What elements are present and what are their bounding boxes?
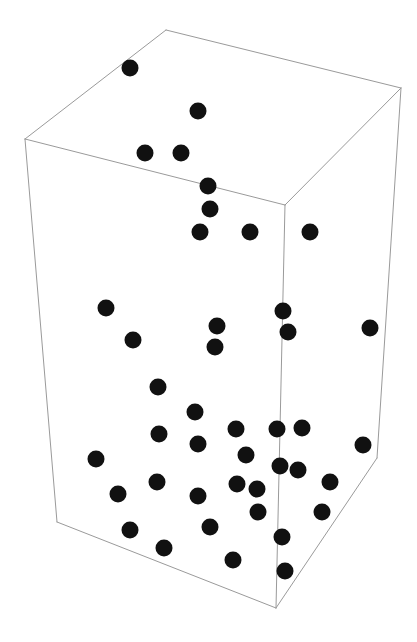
data-point <box>202 201 219 218</box>
data-point <box>202 519 219 536</box>
data-point <box>242 224 259 241</box>
data-point <box>290 462 307 479</box>
data-point <box>277 563 294 580</box>
data-point <box>229 476 246 493</box>
data-point <box>280 324 297 341</box>
data-point <box>362 320 379 337</box>
data-point <box>209 318 226 335</box>
data-point <box>294 420 311 437</box>
data-point <box>190 436 207 453</box>
data-point <box>156 540 173 557</box>
data-point <box>173 145 190 162</box>
data-point <box>187 404 204 421</box>
data-point <box>122 522 139 539</box>
data-point <box>272 458 289 475</box>
data-point <box>125 332 142 349</box>
data-point <box>190 103 207 120</box>
data-point <box>122 60 139 77</box>
data-point <box>250 504 267 521</box>
data-point <box>192 224 209 241</box>
data-point <box>151 426 168 443</box>
data-point <box>225 552 242 569</box>
data-point <box>88 451 105 468</box>
data-point <box>322 474 339 491</box>
scatter3d-canvas <box>0 0 417 642</box>
data-point <box>200 178 217 195</box>
data-point <box>110 486 127 503</box>
data-point <box>314 504 331 521</box>
data-point <box>150 379 167 396</box>
data-point <box>190 488 207 505</box>
data-point <box>238 447 255 464</box>
data-point <box>98 300 115 317</box>
data-point <box>275 303 292 320</box>
data-point <box>302 224 319 241</box>
data-point <box>274 529 291 546</box>
data-point <box>207 339 224 356</box>
data-point <box>355 437 372 454</box>
data-point <box>149 474 166 491</box>
data-point <box>269 421 286 438</box>
data-point <box>228 421 245 438</box>
scatter3d-plot-container <box>0 0 417 642</box>
data-point <box>249 481 266 498</box>
data-point <box>137 145 154 162</box>
